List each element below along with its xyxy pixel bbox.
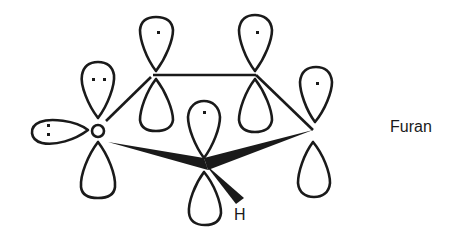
c5-p-orbital-upper-lobe bbox=[188, 101, 220, 158]
electron-dot bbox=[316, 82, 319, 85]
electron-dot bbox=[103, 78, 106, 81]
electron-dot bbox=[203, 111, 206, 114]
electron-dot bbox=[47, 124, 50, 127]
molecule-name-label: Furan bbox=[390, 118, 432, 136]
oxygen-atom bbox=[92, 125, 104, 137]
hydrogen-label: H bbox=[234, 206, 246, 224]
c2-p-orbital-lower-lobe bbox=[140, 79, 173, 131]
c4-p-orbital-upper-lobe bbox=[300, 67, 332, 122]
electron-dot bbox=[256, 31, 259, 34]
wedge-bond-c5-c4 bbox=[204, 130, 313, 170]
c3-p-orbital-upper-lobe bbox=[239, 15, 272, 71]
c5-p-orbital-lower-lobe bbox=[189, 172, 221, 225]
c4-p-orbital-lower-lobe bbox=[298, 142, 330, 197]
electron-dot bbox=[157, 31, 160, 34]
oxygen-p-orbital-lower-lobe bbox=[81, 142, 115, 198]
oxygen-lone-pair-lobe bbox=[32, 120, 88, 144]
oxygen-p-orbital-upper-lobe bbox=[82, 62, 114, 118]
electron-dot bbox=[47, 133, 50, 136]
c2-p-orbital-upper-lobe bbox=[140, 17, 173, 71]
electron-dot bbox=[92, 78, 95, 81]
wedge-bond-o-c5 bbox=[108, 142, 208, 170]
